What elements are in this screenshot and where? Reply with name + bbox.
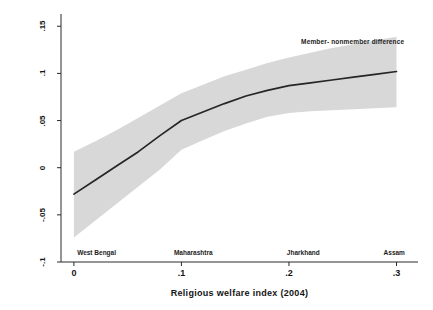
y-axis-tick-label: -.05 (38, 202, 48, 228)
y-axis-tick-label: .1 (38, 60, 48, 86)
region-label: Jharkhand (287, 249, 320, 256)
series-annotation-label: Member- nonmember difference (301, 38, 404, 45)
confidence-band-group (74, 37, 397, 238)
x-axis-tick-label: 0 (59, 268, 89, 278)
x-axis-ticks (74, 262, 397, 266)
x-axis-tick-label: .3 (381, 268, 411, 278)
x-axis-tick-label: .2 (274, 268, 304, 278)
x-axis-tick-label: .1 (166, 268, 196, 278)
region-label: Maharashtra (174, 249, 213, 256)
confidence-band (74, 37, 397, 238)
region-label: West Bengal (77, 249, 116, 256)
x-axis-title: Religious welfare index (2004) (61, 288, 418, 298)
y-axis-ticks (57, 26, 61, 262)
chart-figure: Average marginal impact of membership (2… (0, 0, 433, 310)
region-label: Assam (384, 249, 405, 256)
y-axis-tick-label: 0 (38, 155, 48, 181)
y-axis-tick-label: -.1 (38, 249, 48, 275)
y-axis-tick-label: .05 (38, 108, 48, 134)
y-axis-tick-label: .15 (38, 13, 48, 39)
plot-canvas (0, 0, 433, 310)
